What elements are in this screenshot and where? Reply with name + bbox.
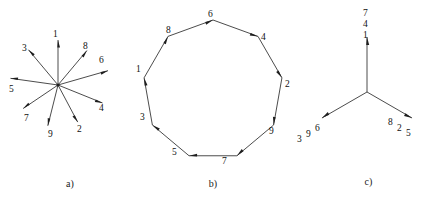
spoke-label-5: 5	[9, 85, 14, 95]
spoke-line-6	[58, 71, 108, 85]
spoke-arrowhead-3	[28, 50, 34, 56]
spoke-label-8: 8	[83, 42, 88, 52]
spoke-arrowhead-2	[72, 115, 77, 122]
spoke-label-3: 3	[22, 44, 27, 54]
arm-label-group-up: 741	[363, 8, 368, 41]
spoke-label-1: 1	[53, 30, 58, 40]
spoke-arrowhead-9	[48, 118, 51, 126]
arm-label-lower-right-8: 8	[388, 118, 393, 128]
arm-label-up-1: 1	[363, 30, 368, 41]
spoke-label-2: 2	[77, 125, 82, 135]
nonagon-vertex-label-6: 6	[208, 10, 213, 20]
nonagon-arrowhead-4	[250, 33, 258, 36]
nonagon-arrowhead-8	[163, 36, 168, 44]
panel-c-drawing	[292, 0, 445, 175]
arm-arrowhead-lower-left	[322, 112, 329, 118]
spoke-label-6: 6	[99, 56, 104, 66]
arm-label-lower-right-5: 5	[406, 129, 411, 139]
caption-c: c)	[292, 176, 445, 187]
arm-label-group-lower-left: 396	[297, 124, 327, 144]
nonagon-vertex-label-1: 1	[136, 65, 141, 75]
nonagon-vertex-label-4: 4	[261, 33, 266, 43]
panel-c-three-arrow-star: c) 741396825	[292, 0, 445, 207]
nonagon-arrowhead-3	[152, 125, 159, 131]
spoke-arrowhead-6	[101, 71, 108, 75]
figure-root: a) 186429753 b) 642975318 c) 741396825	[0, 0, 445, 207]
nonagon-arrowhead-6	[205, 20, 213, 25]
panel-b-directed-nonagon: b) 642975318	[118, 0, 308, 207]
arm-label-up-4: 4	[363, 19, 368, 30]
nonagon-arrowhead-9	[273, 117, 276, 125]
nonagon-vertex-label-8: 8	[166, 26, 171, 36]
caption-b: b)	[118, 178, 308, 189]
arm-label-lower-left-9: 9	[306, 130, 311, 140]
panel-b-drawing	[118, 0, 308, 175]
nonagon-arrowhead-1	[144, 78, 147, 86]
arm-label-lower-left-3: 3	[297, 135, 302, 145]
nonagon-arrowhead-7	[237, 149, 244, 156]
nonagon-vertex-label-5: 5	[172, 148, 177, 158]
nonagon-arrowhead-2	[276, 71, 282, 78]
nonagon-vertex-label-7: 7	[222, 157, 227, 167]
spoke-arrowhead-7	[23, 103, 30, 109]
nonagon-vertex-label-2: 2	[285, 80, 290, 90]
arm-label-group-lower-right: 825	[388, 118, 418, 138]
star-origin-dot	[56, 83, 59, 86]
spoke-label-7: 7	[24, 114, 29, 124]
arm-label-lower-right-2: 2	[397, 124, 402, 134]
spoke-label-9: 9	[48, 130, 53, 140]
spoke-label-4: 4	[99, 104, 104, 114]
arm-label-up-7: 7	[363, 8, 368, 19]
nonagon-vertex-label-3: 3	[140, 113, 145, 123]
nonagon-vertex-label-9: 9	[269, 127, 274, 137]
arm-label-lower-left-6: 6	[315, 124, 320, 134]
